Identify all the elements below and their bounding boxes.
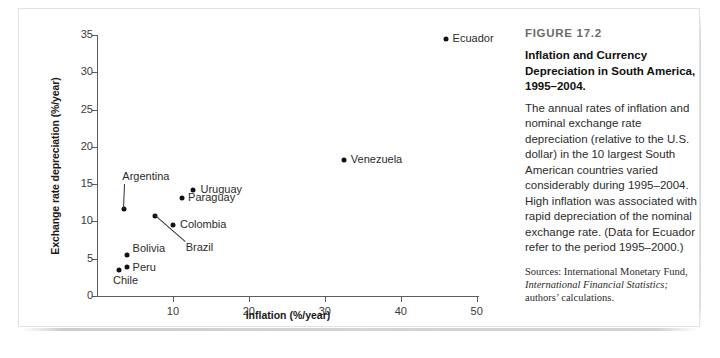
y-tick-label: 25: [81, 102, 93, 117]
y-tick-label: 30: [81, 64, 93, 79]
data-point-label-peru: Peru: [133, 261, 156, 274]
y-tick-label: 20: [81, 139, 93, 154]
figure-page: Exchange rate depreciation (%/year) 0510…: [0, 0, 720, 358]
data-point-bolivia: [124, 252, 129, 257]
data-point-label-brazil: Brazil: [186, 241, 214, 254]
sources-italic-title: International Financial Statistics;: [525, 279, 668, 290]
x-axis-line: [97, 296, 479, 297]
data-point-label-ecuador: Ecuador: [453, 32, 494, 45]
y-tick-label: 0: [87, 288, 93, 303]
scatter-chart: Exchange rate depreciation (%/year) 0510…: [19, 9, 497, 328]
y-axis-title-text: Exchange rate depreciation (%/year): [49, 35, 61, 297]
sources-prefix: Sources: International Monetary Fund,: [525, 266, 688, 277]
y-axis-line: [97, 35, 98, 297]
data-point-peru: [124, 264, 129, 269]
figure-sources: Sources: International Monetary Fund, In…: [525, 265, 703, 304]
data-point-label-bolivia: Bolivia: [133, 242, 165, 255]
y-tick-label: 5: [87, 251, 93, 266]
y-axis-title: Exchange rate depreciation (%/year): [49, 35, 63, 297]
caption-column: FIGURE 17.2 Inflation and Currency Depre…: [525, 27, 703, 304]
x-tick-mark: [173, 296, 174, 302]
data-point-paraguay: [180, 196, 185, 201]
data-point-venezuela: [341, 157, 346, 162]
data-point-ecuador: [443, 36, 448, 41]
data-point-label-colombia: Colombia: [180, 218, 226, 231]
data-point-colombia: [170, 223, 175, 228]
y-tick-label: 10: [81, 213, 93, 228]
x-tick-mark: [401, 296, 402, 302]
figure-number: FIGURE 17.2: [525, 27, 703, 39]
figure-card: Exchange rate depreciation (%/year) 0510…: [18, 8, 700, 327]
figure-description: The annual rates of inflation and nomina…: [525, 101, 703, 256]
x-tick-mark: [249, 296, 250, 302]
data-point-label-venezuela: Venezuela: [351, 153, 402, 166]
leader-line-argentina: [123, 184, 125, 209]
x-tick-mark: [477, 296, 478, 302]
y-tick-label: 15: [81, 176, 93, 191]
x-axis-title: Inflation (%/year): [97, 309, 479, 321]
data-point-label-paraguay: Paraguay: [188, 191, 235, 204]
x-tick-mark: [325, 296, 326, 302]
sources-suffix: authors’ calculations.: [525, 292, 614, 303]
y-tick-label: 35: [81, 27, 93, 42]
plot-area: 05101520253035 1020304050 EcuadorVenezue…: [97, 35, 479, 297]
data-point-chile: [117, 267, 122, 272]
scan-shadow: [22, 328, 698, 331]
data-point-label-chile: Chile: [113, 274, 138, 287]
figure-title: Inflation and Currency Depreciation in S…: [525, 48, 703, 95]
data-point-label-argentina: Argentina: [122, 170, 169, 183]
